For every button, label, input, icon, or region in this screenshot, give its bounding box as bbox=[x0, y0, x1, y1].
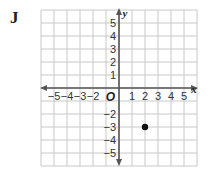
x-tick-label: 5 bbox=[181, 90, 187, 102]
x-axis-label: x bbox=[190, 83, 197, 95]
y-axis-label: y bbox=[121, 7, 128, 19]
x-tick-label: −3 bbox=[74, 90, 87, 102]
x-tick-label: 2 bbox=[142, 90, 148, 102]
y-tick-label: −5 bbox=[103, 147, 116, 159]
y-tick-label: 3 bbox=[110, 43, 116, 55]
y-tick-label: −3 bbox=[103, 121, 116, 133]
y-axis-down-arrow-icon bbox=[116, 159, 122, 166]
y-tick-label: 5 bbox=[110, 17, 116, 29]
y-tick-label: −2 bbox=[103, 108, 116, 120]
x-tick-label: 3 bbox=[155, 90, 161, 102]
x-tick-label: 4 bbox=[168, 90, 174, 102]
y-tick-label: −4 bbox=[103, 134, 116, 146]
x-tick-label: −5 bbox=[48, 90, 61, 102]
x-tick-label: −2 bbox=[87, 90, 100, 102]
y-axis-up-arrow-icon bbox=[116, 8, 122, 15]
y-tick-label: 4 bbox=[110, 30, 116, 42]
y-tick-label: 1 bbox=[110, 69, 116, 81]
plotted-point bbox=[142, 124, 148, 130]
origin-label: O bbox=[106, 90, 116, 104]
x-tick-label: 1 bbox=[129, 90, 135, 102]
x-tick-label: −4 bbox=[61, 90, 74, 102]
coordinate-plane: −5−4−3−21234554321−2−3−4−5Oxy bbox=[0, 0, 210, 174]
y-tick-label: 2 bbox=[110, 56, 116, 68]
